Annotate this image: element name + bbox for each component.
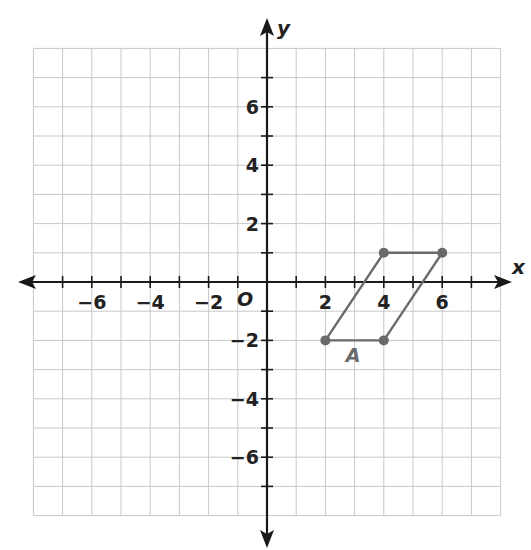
vertex-point bbox=[320, 335, 330, 345]
x-tick-label: −4 bbox=[136, 291, 165, 313]
y-axis-label: y bbox=[277, 16, 291, 40]
vertex-point bbox=[437, 248, 447, 258]
y-tick-label: 2 bbox=[246, 213, 259, 235]
x-tick-label: −2 bbox=[194, 291, 223, 313]
x-tick-label: −6 bbox=[77, 291, 106, 313]
vertex-point bbox=[379, 335, 389, 345]
y-tick-label: −4 bbox=[230, 388, 259, 410]
figure-label-a: A bbox=[344, 344, 361, 366]
y-tick-label: −6 bbox=[230, 446, 259, 468]
x-axis-label: x bbox=[511, 255, 526, 279]
vertex-point bbox=[379, 248, 389, 258]
y-tick-label: 4 bbox=[246, 154, 259, 176]
y-tick-label: 6 bbox=[246, 96, 259, 118]
x-tick-label: 2 bbox=[319, 291, 332, 313]
y-tick-label: −2 bbox=[230, 329, 259, 351]
x-tick-label: 6 bbox=[436, 291, 449, 313]
coordinate-plane: −6−4−2246642−2−4−6 x y O A bbox=[0, 0, 531, 550]
origin-label: O bbox=[237, 288, 253, 310]
x-tick-label: 4 bbox=[377, 291, 390, 313]
